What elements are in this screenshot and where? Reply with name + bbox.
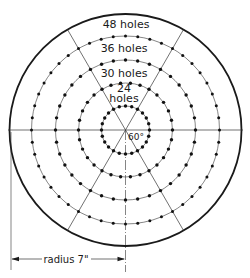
hole-dot (159, 189, 162, 192)
hole-dot (55, 116, 58, 119)
label-30-holes: 30 holes (101, 67, 148, 80)
hole-dot (43, 82, 46, 85)
hole-dot (112, 149, 115, 152)
hole-dot (100, 194, 103, 197)
hole-dot (77, 210, 80, 213)
hole-dot (124, 152, 127, 155)
hole-dot (86, 101, 89, 104)
hole-dot (138, 84, 141, 87)
hole-dot (88, 215, 91, 218)
hole-dot (130, 151, 133, 154)
hole-dot (155, 93, 158, 96)
hole-dot (107, 111, 110, 114)
hole-dot (118, 105, 121, 108)
dimension-arrow-left-icon (12, 257, 20, 261)
hole-dot (89, 189, 92, 192)
hole-dot (77, 128, 80, 131)
hole-dot (148, 219, 151, 222)
hole-dot (118, 151, 121, 154)
dimension-arrow-right-icon (118, 257, 126, 261)
hole-dot (78, 119, 81, 122)
hole-dot (81, 109, 84, 112)
hole-dot (129, 175, 132, 178)
label-48-holes: 48 holes (103, 18, 150, 31)
hole-dot (124, 198, 127, 201)
hole-dot (147, 88, 150, 91)
hole-dot (199, 71, 202, 74)
hole-dot (100, 128, 103, 131)
hole-dot (193, 140, 196, 143)
hole-dot (218, 129, 221, 132)
hole-dot (30, 129, 33, 132)
hole-dot (184, 93, 187, 96)
hole-dot (130, 105, 133, 108)
hole-dot (170, 138, 173, 141)
hole-dot (141, 145, 144, 148)
hole-dot (92, 93, 95, 96)
hole-dot (37, 93, 40, 96)
hole-dot (217, 141, 220, 144)
hole-dot (67, 203, 70, 206)
hole-dot (177, 83, 180, 86)
hole-dot (162, 101, 165, 104)
hole-dot (77, 47, 80, 50)
dimension-label-radius: radius 7" (43, 254, 88, 265)
hole-dot (112, 35, 115, 38)
hole-dot (58, 152, 61, 155)
hole-dot (107, 145, 110, 148)
hole-dot (147, 169, 150, 172)
hole-dot (100, 88, 103, 91)
hole-dot (181, 54, 184, 57)
hole-dot (217, 116, 220, 119)
hole-dot (112, 222, 115, 225)
hole-dot (100, 169, 103, 172)
hole-dot (124, 223, 127, 226)
hole-dot (167, 109, 170, 112)
hole-dot (86, 156, 89, 159)
hole-dot (79, 182, 82, 185)
hole-dot (49, 186, 52, 189)
angle-label-60: 60° (128, 132, 144, 142)
hole-dot (100, 63, 103, 66)
hole-dot (89, 68, 92, 71)
hole-dot (171, 210, 174, 213)
hole-dot (79, 75, 82, 78)
hole-dot (205, 82, 208, 85)
hole-dot (160, 215, 163, 218)
hole-dot (136, 35, 139, 38)
hole-dot (211, 164, 214, 167)
hole-dot (31, 116, 34, 119)
hole-dot (109, 173, 112, 176)
hole-dot (78, 138, 81, 141)
hole-dot (54, 128, 57, 131)
hole-dot (138, 173, 141, 176)
hole-dot (215, 153, 218, 156)
hole-dot (58, 195, 61, 198)
label-36-holes: 36 holes (101, 42, 148, 55)
hole-dot (147, 135, 150, 138)
hole-dot (119, 175, 122, 178)
hole-dot (211, 93, 214, 96)
hole-dot (148, 194, 151, 197)
hole-dot (145, 140, 148, 143)
hole-dot (145, 116, 148, 119)
hole-dot (177, 173, 180, 176)
hole-dot (171, 47, 174, 50)
hole-dot (81, 147, 84, 150)
hole-dot (190, 152, 193, 155)
hole-dot (194, 128, 197, 131)
hole-dot (171, 128, 174, 131)
hole-dot (184, 163, 187, 166)
hole-dot (92, 163, 95, 166)
hole-dot (63, 163, 66, 166)
hole-dot (215, 104, 218, 107)
hole-dot (67, 54, 70, 57)
hole-dot (109, 84, 112, 87)
hole-dot (88, 42, 91, 45)
hole-dot (33, 153, 36, 156)
hole-dot (190, 104, 193, 107)
hole-dot (101, 135, 104, 138)
hole-dot (136, 149, 139, 152)
hole-dot (100, 219, 103, 222)
hole-dot (58, 104, 61, 107)
